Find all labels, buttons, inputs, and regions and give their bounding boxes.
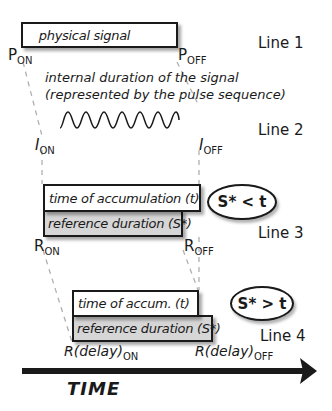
line-3-label: Line 3 — [258, 224, 304, 242]
physical-signal-text: physical signal — [23, 24, 176, 46]
accum-time-text: time of accum. (t) — [74, 292, 197, 315]
time-axis-label: TIME — [67, 378, 120, 399]
reference-duration-text: reference duration (S*) — [45, 212, 181, 235]
comparison-ellipse-less: S* < t — [207, 184, 277, 220]
line-2-label: Line 2 — [258, 121, 304, 139]
reference-duration-delay-text: reference duration (S*) — [74, 317, 211, 340]
comparison-ellipse-greater: S* > t — [230, 286, 294, 321]
line-1-label: Line 1 — [258, 34, 304, 52]
line-4-label: Line 4 — [260, 327, 306, 345]
reference-duration-box: reference duration (S*) — [43, 210, 183, 237]
reference-duration-delay-box: reference duration (S*) — [72, 315, 213, 342]
accum-time-box: time of accum. (t) — [72, 290, 199, 317]
i-off-label: IOFF — [199, 136, 223, 154]
physical-signal-box: physical signal — [21, 22, 178, 48]
p-off-label: POFF — [178, 46, 206, 64]
pulse-sequence-caption: (represented by the pulse sequence) — [45, 87, 286, 102]
i-on-label: ION — [35, 136, 55, 154]
r-delay-off-label: R(delay)OFF — [195, 343, 273, 359]
accumulation-time-box: time of accumulation (t) — [43, 184, 201, 212]
r-off-label: ROFF — [184, 237, 214, 255]
internal-duration-caption: internal duration of the signal — [45, 70, 239, 85]
r-delay-on-label: R(delay)ON — [64, 343, 138, 359]
r-on-label: RON — [34, 237, 60, 255]
accumulation-time-text: time of accumulation (t) — [45, 186, 199, 210]
p-on-label: PON — [8, 46, 32, 64]
pulse-sequence-wave — [60, 112, 179, 128]
